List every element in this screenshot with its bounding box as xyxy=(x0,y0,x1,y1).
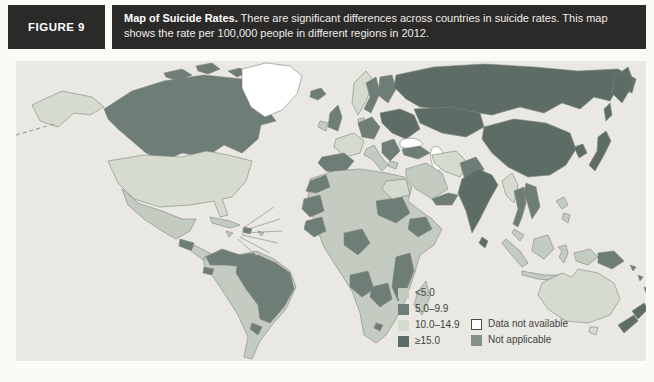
legend-swatch xyxy=(471,319,482,330)
legend-label: <5.0 xyxy=(415,288,435,298)
continent-asia xyxy=(394,64,636,281)
figure-caption-title: Map of Suicide Rates. xyxy=(124,12,238,24)
legend-item: 10.0–14.9 xyxy=(398,320,460,331)
legend-item: <5.0 xyxy=(398,288,460,299)
world-map-graphic xyxy=(16,61,646,361)
continent-south-america xyxy=(203,249,296,359)
legend-swatch xyxy=(398,288,409,299)
legend-item: Data not available xyxy=(471,319,568,330)
figure-caption: Map of Suicide Rates. There are signific… xyxy=(112,5,646,49)
figure-header: FIGURE 9 Map of Suicide Rates. There are… xyxy=(8,5,646,49)
world-map: <5.05.0–9.910.0–14.9≥15.0 Data not avail… xyxy=(16,61,646,361)
legend-item: ≥15.0 xyxy=(398,336,460,347)
legend-label: 5.0–9.9 xyxy=(415,304,448,314)
legend-swatch xyxy=(398,320,409,331)
legend-item: 5.0–9.9 xyxy=(398,304,460,315)
map-legend-rates: <5.05.0–9.910.0–14.9≥15.0 xyxy=(398,288,460,347)
legend-item: Not applicable xyxy=(471,335,568,346)
legend-label: 10.0–14.9 xyxy=(415,320,460,330)
map-legend-other: Data not availableNot applicable xyxy=(471,319,568,346)
figure-panel: FIGURE 9 Map of Suicide Rates. There are… xyxy=(0,0,654,382)
continent-north-america xyxy=(16,63,302,275)
legend-label: ≥15.0 xyxy=(415,336,440,346)
legend-swatch xyxy=(398,304,409,315)
figure-label: FIGURE 9 xyxy=(8,5,105,49)
legend-swatch xyxy=(398,336,409,347)
legend-label: Data not available xyxy=(488,319,568,329)
legend-label: Not applicable xyxy=(488,335,551,345)
legend-swatch xyxy=(471,335,482,346)
